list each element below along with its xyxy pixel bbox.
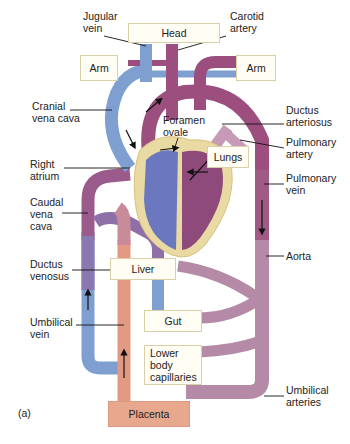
arm-left-box: Arm	[80, 55, 118, 81]
label-foramen-ovale: Foramen ovale	[163, 114, 205, 138]
label-ductus-venosus: Ductus venosus	[30, 258, 69, 282]
label-right-atrium: Right atrium	[30, 158, 59, 182]
label-carotid-artery: Carotid artery	[230, 10, 264, 34]
head-box: Head	[128, 23, 220, 43]
panel-label: (a)	[18, 407, 31, 419]
fetal-circulation-diagram: Head Arm Arm Lungs Liver Gut Lower body …	[0, 0, 350, 444]
arm-right-box: Arm	[236, 55, 276, 81]
placenta-box: Placenta	[108, 401, 190, 427]
label-cranial-vena-cava: Cranial vena cava	[32, 100, 80, 124]
lungs-box: Lungs	[207, 146, 249, 168]
liver-box: Liver	[110, 258, 176, 280]
label-aorta: Aorta	[286, 250, 311, 262]
label-pulmonary-vein: Pulmonary vein	[286, 172, 336, 196]
liver-artery	[178, 266, 255, 296]
gut-artery	[200, 300, 258, 318]
gut-box: Gut	[144, 310, 202, 332]
label-umbilical-arteries: Umbilical arteries	[286, 384, 329, 408]
label-ductus-arteriosus: Ductus arteriosus	[286, 104, 332, 128]
label-pulmonary-artery: Pulmonary artery	[286, 136, 336, 160]
label-jugular-vein: Jugular vein	[83, 10, 117, 34]
label-caudal-vena-cava: Caudal vena cava	[30, 196, 63, 232]
lower-body-artery	[200, 342, 258, 352]
label-umbilical-vein: Umbilical vein	[30, 316, 73, 340]
lower-body-capillaries-box: Lower body capillaries	[144, 345, 202, 385]
